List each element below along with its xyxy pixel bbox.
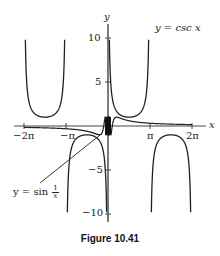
- sin-label-pointer: [40, 135, 100, 183]
- x-tick-label-2pi: 2π: [186, 130, 199, 141]
- y-tick-label-neg5: −5: [88, 164, 103, 175]
- x-tick-label-pi: π: [147, 130, 154, 141]
- sin-inv-x-dense-region: [105, 117, 111, 135]
- csc-curve-branch: [25, 40, 64, 118]
- chart-plot-area: [0, 0, 220, 256]
- x-tick-label-negpi: −π: [60, 130, 75, 141]
- x-tick-label-neg2pi: −2π: [13, 130, 34, 141]
- y-tick-label-neg10: −10: [82, 207, 103, 218]
- sin-curve-label: y = sin 1 x: [13, 185, 59, 200]
- y-tick-label-10: 10: [88, 32, 101, 43]
- y-tick-label-5: 5: [95, 76, 101, 87]
- x-axis-label: x: [209, 119, 215, 130]
- csc-curve-label: y = csc x: [155, 22, 201, 33]
- y-axis-label: y: [104, 11, 110, 22]
- csc-label-text: y = csc x: [155, 22, 201, 33]
- csc-curve-branch: [151, 135, 190, 213]
- figure-caption: Figure 10.41: [0, 233, 220, 244]
- sin-frac-denominator: x: [52, 193, 58, 200]
- sin-label-text: y = sin: [13, 186, 48, 197]
- csc-curve-branch: [109, 40, 148, 118]
- sin-label-fraction: 1 x: [52, 185, 58, 200]
